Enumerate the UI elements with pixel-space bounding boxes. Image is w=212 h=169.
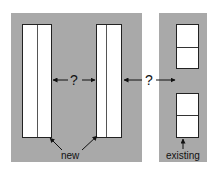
dimension-arrows (0, 0, 212, 169)
existing-label: existing (166, 150, 200, 161)
gap-label-1: ? (70, 73, 78, 87)
pointer-arrow-icon (50, 138, 62, 150)
new-label: new (61, 150, 79, 161)
pointer-arrow-icon (82, 136, 97, 150)
gap-label-2: ? (145, 73, 153, 87)
